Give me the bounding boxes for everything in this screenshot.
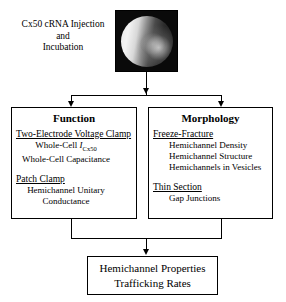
function-box: Function Two-Electrode Voltage Clamp Who… xyxy=(11,107,137,219)
morphology-section-gap xyxy=(149,173,272,182)
item-whole-cell-current: Whole-Cell ICx50 xyxy=(12,140,120,154)
patch-clamp-item-list: Hemichannel Unitary Conductance xyxy=(12,185,136,207)
section-heading-freeze-fracture: Freeze-Fracture xyxy=(153,129,272,139)
two-electrode-item-list: Whole-Cell ICx50 Whole-Cell Capacitance xyxy=(12,140,136,165)
caption-line-2: and xyxy=(14,31,112,43)
outcome-box: Hemichannel Properties Trafficking Rates xyxy=(87,256,218,295)
outcome-line-2: Trafficking Rates xyxy=(88,276,217,291)
item-hemichannels-in-vesicles: Hemichannels in Vesicles xyxy=(169,162,272,173)
connector-function-out xyxy=(71,219,72,238)
item-hemichannel-unitary: Hemichannel Unitary xyxy=(12,185,120,196)
outcome-text: Hemichannel Properties Trafficking Rates xyxy=(88,261,217,291)
connector-split-stub xyxy=(146,90,147,95)
section-heading-thin-section: Thin Section xyxy=(153,182,272,192)
item-whole-cell-capacitance: Whole-Cell Capacitance xyxy=(12,154,120,165)
flowchart-figure: Cx50 cRNA Injection and Incubation Funct… xyxy=(0,0,286,302)
top-caption: Cx50 cRNA Injection and Incubation xyxy=(14,19,112,54)
item-conductance: Conductance xyxy=(12,196,120,207)
caption-line-3: Incubation xyxy=(14,42,112,54)
thin-section-item-list: Gap Junctions xyxy=(149,193,272,204)
function-box-title: Function xyxy=(12,112,136,124)
item-gap-junctions: Gap Junctions xyxy=(169,193,272,204)
morphology-box-title: Morphology xyxy=(149,112,272,124)
morphology-box: Morphology Freeze-Fracture Hemichannel D… xyxy=(148,107,273,219)
connector-split-bar xyxy=(71,95,222,96)
oocyte-speckle-region xyxy=(140,33,166,55)
function-section-gap xyxy=(12,165,136,174)
outcome-line-1: Hemichannel Properties xyxy=(88,261,217,276)
connector-morphology-out xyxy=(221,219,222,238)
caption-line-1: Cx50 cRNA Injection xyxy=(14,19,112,31)
arrowhead-outcome xyxy=(143,249,149,255)
section-heading-patch-clamp: Patch Clamp xyxy=(16,174,136,184)
item-hemichannel-density: Hemichannel Density xyxy=(169,140,272,151)
section-heading-two-electrode-voltage-clamp: Two-Electrode Voltage Clamp xyxy=(16,129,136,139)
freeze-fracture-item-list: Hemichannel Density Hemichannel Structur… xyxy=(149,140,272,173)
oocyte-micrograph xyxy=(115,10,178,72)
item-hemichannel-structure: Hemichannel Structure xyxy=(169,151,272,162)
